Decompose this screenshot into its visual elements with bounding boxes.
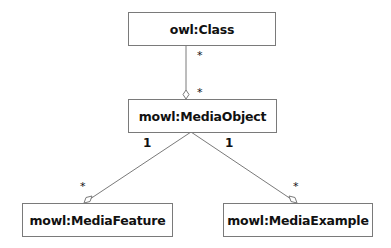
uml-diagram: owl:Class mowl:MediaObject mowl:MediaFea… xyxy=(0,0,391,248)
class-box-media-feature[interactable]: mowl:MediaFeature xyxy=(22,203,173,237)
class-label: mowl:MediaExample xyxy=(227,213,368,228)
multiplicity-label: * xyxy=(197,50,203,61)
class-label: owl:Class xyxy=(170,22,234,37)
class-box-media-object[interactable]: mowl:MediaObject xyxy=(128,99,277,133)
class-label: mowl:MediaFeature xyxy=(29,213,165,228)
multiplicity-label: 1 xyxy=(225,137,233,149)
multiplicity-label: * xyxy=(80,181,86,192)
hollow-diamond-icon xyxy=(84,196,92,203)
class-label: mowl:MediaObject xyxy=(139,109,267,124)
multiplicity-label: 1 xyxy=(143,137,151,149)
hollow-diamond-icon xyxy=(289,196,297,203)
multiplicity-label: * xyxy=(293,181,299,192)
multiplicity-label: * xyxy=(197,87,203,98)
class-box-media-example[interactable]: mowl:MediaExample xyxy=(223,203,373,237)
class-box-owl-class[interactable]: owl:Class xyxy=(128,12,276,46)
edge-mediaobject-to-mediaexample xyxy=(191,132,291,199)
edge-mediaobject-to-mediafeature xyxy=(90,132,191,199)
hollow-diamond-icon xyxy=(183,90,189,99)
